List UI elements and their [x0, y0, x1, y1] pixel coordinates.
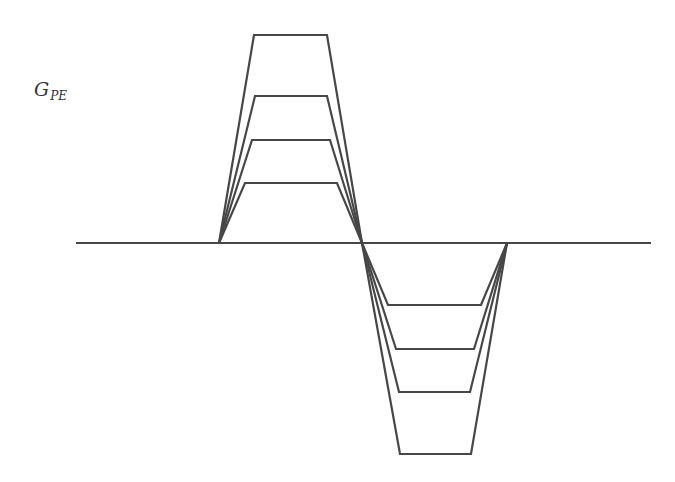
phase-encoding-gradient-diagram: GPE — [0, 0, 675, 482]
gpe-axis-label: GPE — [34, 80, 67, 102]
gradient-waveforms — [219, 35, 507, 454]
label-subscript: PE — [50, 89, 67, 103]
gradient-waveform-plot — [0, 0, 675, 482]
label-main: G — [34, 78, 49, 100]
